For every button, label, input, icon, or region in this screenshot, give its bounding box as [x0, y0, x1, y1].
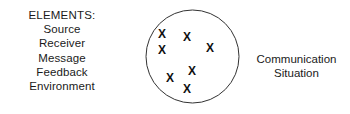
x-mark: X	[206, 42, 214, 54]
situation-label-line-1: Communication	[245, 52, 348, 66]
elements-item-message: Message	[8, 51, 116, 65]
diagram-canvas: ELEMENTS: Source Receiver Message Feedba…	[0, 0, 350, 114]
elements-list: ELEMENTS: Source Receiver Message Feedba…	[8, 8, 116, 93]
x-mark: X	[158, 28, 166, 40]
communication-situation-label: Communication Situation	[245, 52, 348, 80]
elements-item-environment: Environment	[8, 79, 116, 93]
x-mark: X	[188, 65, 196, 77]
situation-label-line-2: Situation	[245, 66, 348, 80]
x-mark: X	[183, 83, 191, 95]
elements-item-receiver: Receiver	[8, 36, 116, 50]
x-mark: X	[183, 31, 191, 43]
elements-item-source: Source	[8, 22, 116, 36]
elements-heading: ELEMENTS:	[8, 8, 116, 22]
x-mark: X	[166, 72, 174, 84]
elements-item-feedback: Feedback	[8, 65, 116, 79]
x-mark: X	[158, 44, 166, 56]
communication-situation-circle: X X X X X X X	[145, 9, 240, 104]
